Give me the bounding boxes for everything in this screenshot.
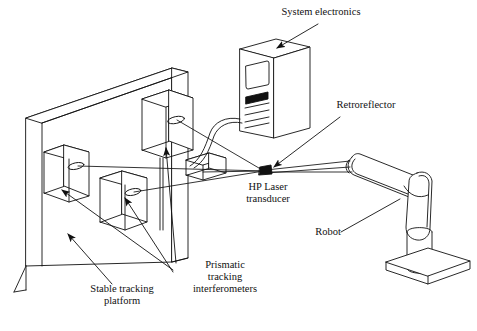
retroreflector-target [259, 165, 272, 175]
label-stable-line2: platform [104, 295, 140, 306]
label-stable-line1: Stable tracking [90, 283, 153, 294]
label-prismatic-line3: interferometers [193, 283, 257, 294]
label-hp-laser-line1: HP Laser [249, 181, 288, 192]
label-robot: Robot [305, 226, 351, 238]
label-prismatic-line2: tracking [208, 271, 242, 282]
label-system-electronics: System electronics [266, 6, 376, 18]
label-prismatic-tracking-interferometers: Prismatic tracking interferometers [176, 259, 274, 295]
label-hp-laser-line2: transducer [246, 193, 290, 204]
label-prismatic-line1: Prismatic [205, 259, 245, 270]
label-stable-tracking-platform: Stable tracking platform [73, 283, 171, 307]
label-hp-laser-transducer: HP Laser transducer [226, 181, 310, 205]
robot-base-plate [386, 248, 470, 284]
system-electronics-tower [240, 39, 310, 138]
label-retroreflector: Retroreflector [318, 99, 414, 111]
